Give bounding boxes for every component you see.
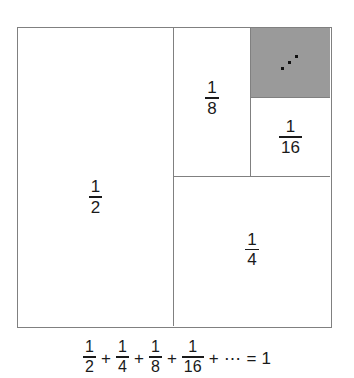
fraction-denominator: 16 xyxy=(279,138,302,156)
fraction-numerator: 1 xyxy=(284,118,297,136)
equation-term-one-quarter: 1 4 xyxy=(116,339,129,374)
equation-term-one-sixteenth: 1 16 xyxy=(182,339,204,374)
equation-result: 1 xyxy=(262,350,271,367)
equals-operator: = xyxy=(247,350,257,367)
equation-term-one-half: 1 2 xyxy=(83,339,96,374)
ellipsis-dot xyxy=(295,55,298,58)
geometric-series-figure: 1 2 1 4 1 8 1 16 xyxy=(0,0,354,378)
fraction-denominator: 2 xyxy=(83,358,96,375)
equation-ellipsis: ⋯ xyxy=(224,350,242,367)
fraction-numerator: 1 xyxy=(149,339,162,356)
plus-operator: + xyxy=(101,350,111,367)
fraction-one-quarter: 1 4 xyxy=(245,231,258,268)
fraction-denominator: 2 xyxy=(89,198,102,216)
fraction-denominator: 16 xyxy=(182,358,204,375)
unit-square: 1 2 1 4 1 8 1 16 xyxy=(17,27,332,328)
ellipsis-dot xyxy=(288,61,291,64)
fraction-numerator: 1 xyxy=(245,231,258,249)
fraction-one-half: 1 2 xyxy=(89,178,102,215)
plus-operator: + xyxy=(209,350,219,367)
diagonal-ellipsis-icon xyxy=(279,53,303,73)
region-one-sixteenth: 1 16 xyxy=(251,97,330,176)
fraction-one-sixteenth: 1 16 xyxy=(279,118,302,155)
fraction-denominator: 8 xyxy=(149,358,162,375)
fraction-numerator: 1 xyxy=(83,339,96,356)
ellipsis-dot xyxy=(281,67,284,70)
region-one-quarter: 1 4 xyxy=(174,176,330,326)
plus-operator: + xyxy=(134,350,144,367)
fraction-numerator: 1 xyxy=(186,339,199,356)
fraction-numerator: 1 xyxy=(205,79,218,97)
fraction-numerator: 1 xyxy=(89,178,102,196)
fraction-one-eighth: 1 8 xyxy=(205,79,218,116)
fraction-numerator: 1 xyxy=(116,339,129,356)
fraction-denominator: 8 xyxy=(205,99,218,117)
region-shaded-remainder xyxy=(251,28,330,97)
region-one-eighth: 1 8 xyxy=(174,28,251,176)
fraction-denominator: 4 xyxy=(116,358,129,375)
series-equation: 1 2 + 1 4 + 1 8 + 1 16 + ⋯ = 1 xyxy=(0,336,354,378)
fraction-denominator: 4 xyxy=(245,250,258,268)
equation-term-one-eighth: 1 8 xyxy=(149,339,162,374)
region-one-half: 1 2 xyxy=(18,28,174,326)
plus-operator: + xyxy=(167,350,177,367)
